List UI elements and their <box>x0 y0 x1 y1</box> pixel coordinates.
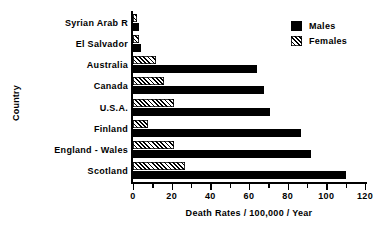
bar-females <box>133 99 174 107</box>
bar-males <box>133 129 301 137</box>
category-label: England - Wales <box>54 145 128 155</box>
chart-legend: Males Females <box>291 20 347 50</box>
bar-females <box>133 56 156 64</box>
x-tick-major <box>249 184 250 190</box>
x-tick-major <box>365 184 366 190</box>
legend-item-females: Females <box>291 35 347 47</box>
category-label: Finland <box>94 124 128 134</box>
bar-group: Finland <box>133 118 365 139</box>
x-tick-minor <box>191 184 192 188</box>
bar-males <box>133 150 311 158</box>
x-tick-minor <box>307 184 308 188</box>
x-tick-label: 0 <box>130 191 135 201</box>
x-tick-label: 100 <box>318 191 334 201</box>
x-tick-major <box>210 184 211 190</box>
category-label: Scotland <box>88 166 128 176</box>
bar-chart: Country Syrian Arab REl SalvadorAustrali… <box>0 0 383 236</box>
x-tick-label: 60 <box>244 191 255 201</box>
bar-males <box>133 86 264 94</box>
bar-females <box>133 35 139 43</box>
x-tick-minor <box>230 184 231 188</box>
category-label: Syrian Arab R <box>65 18 128 28</box>
legend-label-females: Females <box>309 36 347 46</box>
bar-females <box>133 162 185 170</box>
bar-group: England - Wales <box>133 140 365 161</box>
legend-swatch-females-icon <box>291 36 302 46</box>
category-label: Australia <box>87 60 128 70</box>
bar-females <box>133 77 164 85</box>
bar-group: Australia <box>133 55 365 76</box>
x-tick-major <box>172 184 173 190</box>
legend-item-males: Males <box>291 20 347 32</box>
x-axis-title: Death Rates / 100,000 / Year <box>133 208 365 218</box>
bar-males <box>133 44 141 52</box>
legend-label-males: Males <box>309 21 336 31</box>
category-label: U.S.A. <box>100 103 128 113</box>
x-tick-minor <box>346 184 347 188</box>
bar-males <box>133 65 257 73</box>
category-label: Canada <box>94 81 128 91</box>
x-tick-major <box>288 184 289 190</box>
bar-group: Scotland <box>133 161 365 182</box>
bar-females <box>133 120 148 128</box>
bar-males <box>133 171 346 179</box>
category-label: El Salvador <box>76 39 128 49</box>
x-tick-label: 20 <box>166 191 177 201</box>
x-tick-label: 80 <box>282 191 293 201</box>
bar-group: Canada <box>133 76 365 97</box>
y-axis-title: Country <box>11 63 21 143</box>
x-tick-minor <box>268 184 269 188</box>
x-tick-major <box>326 184 327 190</box>
legend-swatch-males-icon <box>291 21 302 31</box>
bar-females <box>133 141 174 149</box>
x-tick-major <box>133 184 134 190</box>
x-tick-label: 40 <box>205 191 216 201</box>
bar-females <box>133 14 137 22</box>
x-tick-minor <box>152 184 153 188</box>
bar-group: U.S.A. <box>133 97 365 118</box>
x-tick-label: 120 <box>357 191 373 201</box>
bar-males <box>133 23 139 31</box>
bar-males <box>133 108 270 116</box>
